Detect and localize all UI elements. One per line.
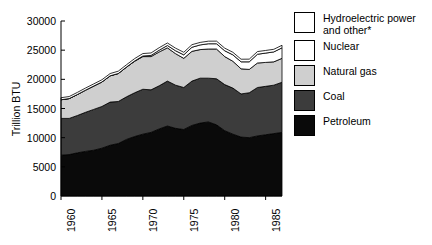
- legend-item: Natural gas: [294, 65, 432, 86]
- chart-legend: Hydroelectric power and other*NuclearNat…: [294, 12, 432, 140]
- x-tick-label: 1970: [147, 209, 159, 232]
- legend-label: Natural gas: [323, 65, 377, 78]
- legend-item: Hydroelectric power and other*: [294, 12, 432, 36]
- legend-swatch: [294, 115, 315, 136]
- legend-item: Coal: [294, 90, 432, 111]
- legend-swatch: [294, 65, 315, 86]
- legend-label: Petroleum: [323, 115, 371, 128]
- legend-swatch: [294, 40, 315, 61]
- x-tick-label: 1965: [106, 209, 118, 232]
- x-tick-label: 1960: [65, 209, 77, 232]
- legend-label: Hydroelectric power and other*: [323, 12, 416, 36]
- y-tick-label: 20000: [16, 74, 56, 84]
- y-tick-label: 0: [16, 191, 56, 201]
- x-tick-label: 1985: [270, 209, 282, 232]
- legend-item: Petroleum: [294, 115, 432, 136]
- legend-item: Nuclear: [294, 40, 432, 61]
- y-tick-label: 15000: [16, 104, 56, 114]
- legend-label: Nuclear: [323, 40, 359, 53]
- y-axis-tick-labels: 300002500020000150001000050000: [8, 0, 56, 245]
- y-tick-label: 30000: [16, 16, 56, 26]
- x-tick-label: 1980: [229, 209, 241, 232]
- y-tick-label: 5000: [16, 162, 56, 172]
- y-tick-label: 10000: [16, 133, 56, 143]
- x-tick-label: 1975: [188, 209, 200, 232]
- y-tick-label: 25000: [16, 45, 56, 55]
- chart-container: Trillion BTU 300002500020000150001000050…: [0, 0, 432, 245]
- legend-label: Coal: [323, 90, 345, 103]
- legend-swatch: [294, 12, 315, 33]
- legend-swatch: [294, 90, 315, 111]
